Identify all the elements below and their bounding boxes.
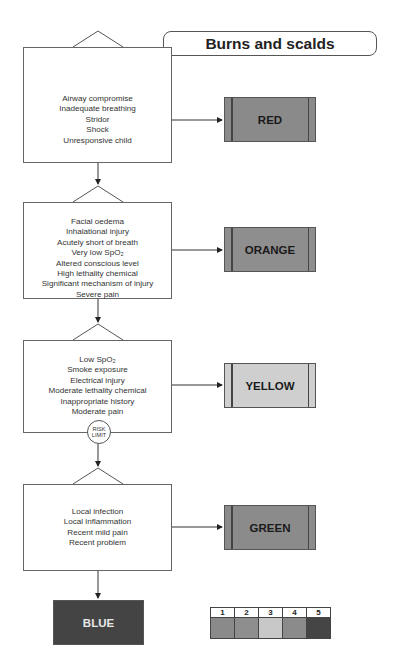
criterion: Low SpO₂: [24, 355, 171, 365]
criterion: Smoke exposure: [24, 365, 171, 375]
legend-number-5: 5: [307, 608, 330, 618]
legend-number-2: 2: [235, 608, 259, 618]
criterion: Inappropriate history: [24, 397, 171, 407]
criteria-list-red: Airway compromise Inadequate breathing S…: [24, 94, 171, 146]
page-title: Burns and scalds: [163, 31, 377, 56]
criteria-block-orange: Facial oedema Inhalational injury Acutel…: [23, 202, 172, 299]
risk-limit-line2: LIMIT: [92, 432, 106, 439]
criterion: Local inflammation: [24, 517, 171, 527]
legend-swatch-4: [283, 618, 307, 638]
legend-number-3: 3: [259, 608, 283, 618]
color-legend: 1 2 3 4 5: [210, 607, 331, 639]
category-box-yellow: YELLOW: [224, 363, 316, 408]
legend-swatch-5: [307, 618, 330, 638]
criterion: Very low SpO₂: [24, 248, 171, 258]
criterion: Recent mild pain: [24, 528, 171, 538]
legend-swatch-1: [211, 618, 235, 638]
criterion: Local infection: [24, 507, 171, 517]
legend-number-1: 1: [211, 608, 235, 618]
category-box-blue: BLUE: [53, 600, 144, 645]
criterion: Severe pain: [24, 290, 171, 300]
criteria-block-green: Local infection Local inflammation Recen…: [23, 484, 172, 571]
criterion: Altered conscious level: [24, 259, 171, 269]
criterion: High lethality chemical: [24, 269, 171, 279]
legend-swatches: [211, 618, 330, 638]
risk-limit-marker: RISK LIMIT: [87, 420, 111, 444]
category-box-red: RED: [224, 97, 316, 142]
criteria-block-red: Airway compromise Inadequate breathing S…: [23, 47, 172, 163]
criterion: Moderate lethality chemical: [24, 386, 171, 396]
criterion: Facial oedema: [24, 217, 171, 227]
criterion: Airway compromise: [24, 94, 171, 104]
criterion: Unresponsive child: [24, 136, 171, 146]
criterion: Significant mechanism of injury: [24, 279, 171, 289]
criteria-list-orange: Facial oedema Inhalational injury Acutel…: [24, 217, 171, 300]
criterion: Shock: [24, 125, 171, 135]
legend-swatch-3: [259, 618, 283, 638]
criterion: Moderate pain: [24, 407, 171, 417]
category-box-orange: ORANGE: [224, 227, 316, 272]
category-box-green: GREEN: [224, 505, 316, 550]
legend-numbers: 1 2 3 4 5: [211, 608, 330, 618]
legend-number-4: 4: [283, 608, 307, 618]
criterion: Inhalational injury: [24, 227, 171, 237]
criteria-list-green: Local infection Local inflammation Recen…: [24, 507, 171, 549]
criterion: Stridor: [24, 115, 171, 125]
criterion: Inadequate breathing: [24, 104, 171, 114]
criterion: Recent problem: [24, 538, 171, 548]
criteria-list-yellow: Low SpO₂ Smoke exposure Electrical injur…: [24, 355, 171, 417]
legend-swatch-2: [235, 618, 259, 638]
criterion: Acutely short of breath: [24, 238, 171, 248]
criterion: Electrical injury: [24, 376, 171, 386]
